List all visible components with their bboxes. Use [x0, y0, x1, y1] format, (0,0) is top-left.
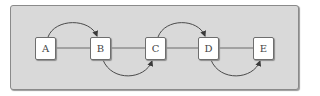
arc-a-to-b [48, 23, 97, 37]
node-d-label: D [204, 43, 212, 54]
node-e: E [253, 37, 274, 60]
node-c: C [145, 37, 166, 60]
node-a: A [35, 37, 56, 60]
arc-b-to-c [103, 60, 152, 76]
arc-d-to-e [211, 60, 260, 76]
node-a-label: A [42, 43, 49, 54]
node-d: D [198, 37, 219, 60]
node-e-label: E [260, 43, 267, 54]
node-b-label: B [97, 43, 104, 54]
node-c-label: C [152, 43, 160, 54]
arc-c-to-d [158, 23, 205, 37]
node-b: B [90, 37, 111, 60]
